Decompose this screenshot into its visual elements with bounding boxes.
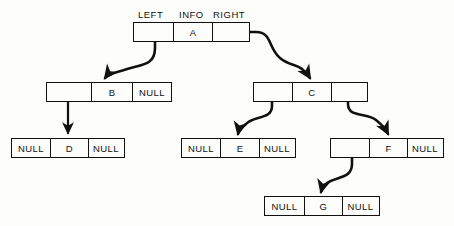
node-e-info-cell: E [220,139,259,157]
node-b-right-cell: NULL [132,83,171,101]
node-f-info-cell: F [369,139,407,157]
node-b[interactable]: B NULL [46,82,172,102]
node-a[interactable]: A [133,22,250,42]
node-a-info-cell: A [173,23,212,41]
node-a-right-cell[interactable] [212,23,249,41]
tree-diagram-canvas: LEFT INFO RIGHT A B NULL C NULL D NULL N… [0,0,454,226]
header-right: RIGHT [213,9,245,20]
node-f-left-cell[interactable] [331,139,369,157]
node-g-info-cell: G [304,197,342,215]
node-f[interactable]: F NULL [330,138,444,158]
node-g-right-cell: NULL [342,197,378,215]
node-c-left-cell[interactable] [254,83,292,101]
node-d-info-cell: D [50,139,88,157]
node-c[interactable]: C [253,82,368,102]
node-d-left-cell: NULL [12,139,50,157]
node-d[interactable]: NULL D NULL [11,138,125,158]
node-b-left-cell[interactable] [47,83,91,101]
node-c-info-cell: C [292,83,331,101]
header-left: LEFT [138,9,163,20]
node-c-right-cell[interactable] [331,83,367,101]
node-d-right-cell: NULL [88,139,123,157]
node-g[interactable]: NULL G NULL [264,196,380,216]
node-a-left-cell[interactable] [134,23,173,41]
node-f-right-cell: NULL [407,139,442,157]
node-g-left-cell: NULL [265,197,304,215]
node-b-info-cell: B [91,83,132,101]
header-info: INFO [179,9,204,20]
node-e[interactable]: NULL E NULL [181,138,296,158]
node-e-right-cell: NULL [259,139,294,157]
node-e-left-cell: NULL [182,139,220,157]
